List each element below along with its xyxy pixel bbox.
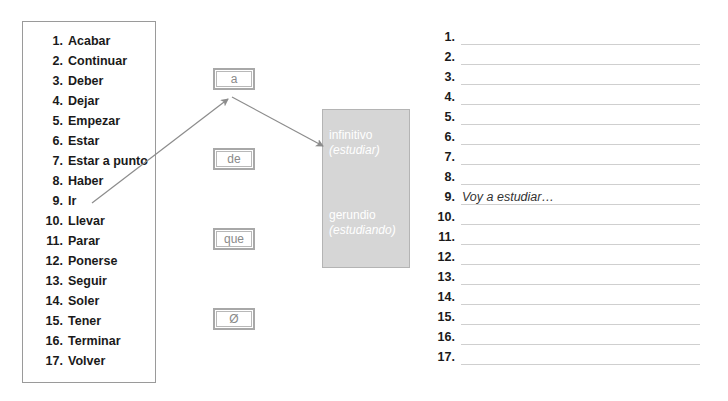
answer-line[interactable]: [461, 324, 700, 325]
verb-label: Haber: [68, 171, 103, 191]
answer-row: 17.: [420, 350, 700, 370]
answer-number: 17.: [420, 347, 455, 367]
infinitive-example: (estudiar): [329, 143, 380, 158]
verb-item: 12.Ponerse: [23, 251, 148, 271]
verb-label: Parar: [68, 231, 100, 251]
answer-line[interactable]: [461, 224, 700, 225]
verb-number: 9.: [23, 191, 68, 211]
verb-number: 16.: [23, 331, 68, 351]
answer-row: 6.: [420, 130, 700, 150]
verb-label: Acabar: [68, 31, 110, 51]
preposition-box-none: Ø: [213, 308, 255, 330]
verb-label: Llevar: [68, 211, 105, 231]
answer-line[interactable]: [461, 44, 700, 45]
answer-number: 3.: [420, 67, 455, 87]
answer-line[interactable]: [461, 184, 700, 185]
answer-row: 16.: [420, 330, 700, 350]
preposition-label: que: [216, 231, 252, 247]
preposition-box-a: a: [213, 68, 255, 90]
verb-label: Dejar: [68, 91, 99, 111]
answer-number: 6.: [420, 127, 455, 147]
verb-item: 15.Tener: [23, 311, 148, 331]
verb-item: 13.Seguir: [23, 271, 148, 291]
gerund-term: gerundio: [329, 208, 396, 223]
verb-number: 8.: [23, 171, 68, 191]
verb-number: 2.: [23, 51, 68, 71]
answer-line[interactable]: [461, 344, 700, 345]
answer-row: 15.: [420, 310, 700, 330]
verb-item: 16.Terminar: [23, 331, 148, 351]
preposition-label: de: [216, 151, 252, 167]
verb-label: Ir: [68, 191, 76, 211]
verb-label: Soler: [68, 291, 99, 311]
verb-item: 14.Soler: [23, 291, 148, 311]
verb-number: 13.: [23, 271, 68, 291]
answer-row: 3.: [420, 70, 700, 90]
verb-item: 11.Parar: [23, 231, 148, 251]
answer-line[interactable]: [461, 284, 700, 285]
verb-item: 2.Continuar: [23, 51, 148, 71]
verb-item: 6.Estar: [23, 131, 148, 151]
answer-line[interactable]: [461, 64, 700, 65]
verb-number: 7.: [23, 151, 68, 171]
verb-list: 1.Acabar 2.Continuar 3.Deber 4.Dejar 5.E…: [23, 31, 148, 371]
answer-line[interactable]: [461, 264, 700, 265]
preposition-label: Ø: [216, 311, 252, 327]
answer-row: 9.Voy a estudiar…: [420, 190, 700, 210]
verb-item: 17.Volver: [23, 351, 148, 371]
answer-row: 10.: [420, 210, 700, 230]
answer-number: 7.: [420, 147, 455, 167]
verb-number: 12.: [23, 251, 68, 271]
verb-number: 1.: [23, 31, 68, 51]
answer-line[interactable]: [461, 364, 700, 365]
answer-number: 10.: [420, 207, 455, 227]
gerund-form: gerundio (estudiando): [329, 208, 396, 238]
verb-label: Continuar: [68, 51, 127, 71]
answer-row: 7.: [420, 150, 700, 170]
infinitive-term: infinitivo: [329, 128, 380, 143]
verb-label: Estar: [68, 131, 99, 151]
answer-number: 1.: [420, 27, 455, 47]
answer-row: 1.: [420, 30, 700, 50]
answer-number: 4.: [420, 87, 455, 107]
preposition-box-de: de: [213, 148, 255, 170]
answer-line[interactable]: [461, 84, 700, 85]
answer-line[interactable]: [461, 124, 700, 125]
verb-item: 1.Acabar: [23, 31, 148, 51]
answer-number: 8.: [420, 167, 455, 187]
answer-number: 16.: [420, 327, 455, 347]
verb-label: Empezar: [68, 111, 120, 131]
verb-item: 4.Dejar: [23, 91, 148, 111]
answer-line[interactable]: [461, 304, 700, 305]
answer-line[interactable]: [461, 104, 700, 105]
answer-list: 1. 2. 3. 4. 5. 6. 7. 8. 9.Voy a estudiar…: [420, 30, 700, 370]
answer-number: 5.: [420, 107, 455, 127]
preposition-box-que: que: [213, 228, 255, 250]
answer-line[interactable]: [461, 164, 700, 165]
answer-number: 9.: [420, 187, 455, 207]
answer-line[interactable]: [461, 244, 700, 245]
verb-number: 17.: [23, 351, 68, 371]
answer-row: 5.: [420, 110, 700, 130]
arrow-preposition-to-form: [232, 97, 323, 146]
answer-row: 13.: [420, 270, 700, 290]
verb-number: 4.: [23, 91, 68, 111]
answer-row: 14.: [420, 290, 700, 310]
verb-number: 3.: [23, 71, 68, 91]
answer-number: 11.: [420, 227, 455, 247]
infinitive-form: infinitivo (estudiar): [329, 128, 380, 158]
verb-list-box: 1.Acabar 2.Continuar 3.Deber 4.Dejar 5.E…: [22, 21, 156, 383]
gerund-example: (estudiando): [329, 223, 396, 238]
verb-label: Estar a punto: [68, 151, 148, 171]
verb-label: Seguir: [68, 271, 107, 291]
verb-label: Deber: [68, 71, 103, 91]
verb-item: 10.Llevar: [23, 211, 148, 231]
answer-number: 2.: [420, 47, 455, 67]
verb-item: 7.Estar a punto: [23, 151, 148, 171]
verb-form-box: infinitivo (estudiar) gerundio (estudian…: [322, 109, 410, 268]
verb-label: Tener: [68, 311, 101, 331]
answer-line[interactable]: [461, 144, 700, 145]
answer-row: 11.: [420, 230, 700, 250]
verb-number: 5.: [23, 111, 68, 131]
verb-item: 3.Deber: [23, 71, 148, 91]
